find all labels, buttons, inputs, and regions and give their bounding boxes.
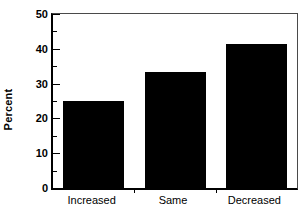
y-axis-minor-tick xyxy=(53,136,57,137)
y-axis-tick-label: 10 xyxy=(8,147,48,159)
bar-series xyxy=(53,14,297,188)
x-axis-tick-label: Decreased xyxy=(228,194,281,206)
x-axis-tick xyxy=(216,188,217,193)
y-axis-tick xyxy=(53,84,60,85)
y-axis-tick xyxy=(53,49,60,50)
y-axis-tick xyxy=(53,153,60,154)
x-axis-tick xyxy=(134,188,135,193)
x-axis-tick-labels: IncreasedSameDecreased xyxy=(51,194,295,214)
y-axis-tick-label: 20 xyxy=(8,112,48,124)
x-axis-tick-label: Increased xyxy=(68,194,116,206)
y-axis-tick-label: 50 xyxy=(8,8,48,20)
y-axis-tick-label: 0 xyxy=(8,182,48,194)
y-axis-minor-tick xyxy=(53,171,57,172)
bar xyxy=(63,101,124,188)
y-axis-tick-label: 30 xyxy=(8,78,48,90)
bar xyxy=(145,72,206,188)
y-axis-minor-tick xyxy=(53,101,57,102)
y-axis-minor-tick xyxy=(53,31,57,32)
bar-chart-figure: Percent 01020304050 IncreasedSameDecreas… xyxy=(0,0,301,219)
y-axis-tick xyxy=(53,188,60,189)
plot-area xyxy=(51,13,298,190)
x-axis-tick-label: Same xyxy=(159,194,188,206)
bar xyxy=(226,44,287,188)
y-axis-tick xyxy=(53,14,60,15)
y-axis-tick xyxy=(53,118,60,119)
y-axis-minor-tick xyxy=(53,66,57,67)
y-axis-tick-label: 40 xyxy=(8,43,48,55)
